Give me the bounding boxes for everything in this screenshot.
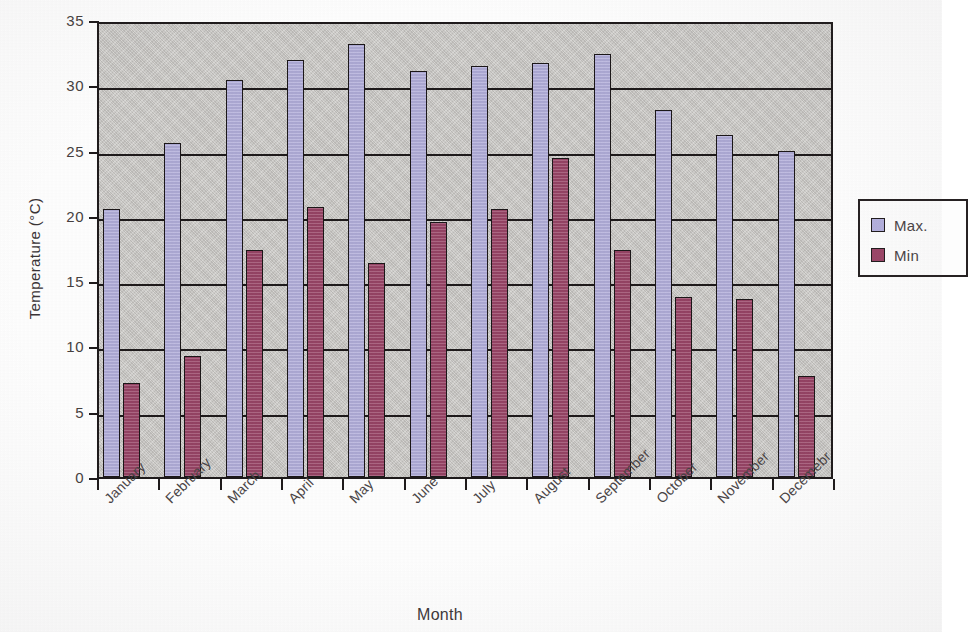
x-axis-tick-label: May (346, 476, 376, 506)
y-axis-tick (89, 152, 99, 154)
bar-max (532, 63, 549, 477)
x-axis-tick-label: July (469, 477, 498, 506)
bar-group (774, 24, 835, 477)
bar-group (283, 24, 344, 477)
y-axis-tick-label: 20 (32, 208, 84, 225)
x-axis-tick (833, 479, 835, 490)
bar-min (491, 209, 508, 477)
bar-texture (533, 64, 548, 476)
bar-max (287, 60, 304, 477)
bar-min (736, 299, 753, 477)
y-axis-tick-labels: 35302520151050 (22, 0, 84, 632)
bar-group (651, 24, 712, 477)
y-axis-tick (89, 217, 99, 219)
y-axis-tick-label: 15 (32, 273, 84, 290)
x-axis-tick-label: April (285, 474, 317, 506)
plot-area (97, 22, 833, 479)
bar-texture (595, 55, 610, 476)
y-axis-tick-label: 30 (32, 77, 84, 94)
bar-texture (247, 251, 262, 476)
y-axis-tick-label: 5 (32, 404, 84, 421)
bar-max (594, 54, 611, 477)
bars-layer (99, 24, 831, 477)
x-axis-tick (649, 479, 651, 490)
bar-max (778, 151, 795, 477)
x-axis-tick (772, 479, 774, 490)
x-axis-tick (220, 479, 222, 490)
x-axis-tick (342, 479, 344, 490)
bar-group (160, 24, 221, 477)
legend-label-max: Max. (894, 217, 928, 234)
legend-label-min: Min (894, 247, 919, 264)
y-axis-tick-label: 10 (32, 338, 84, 355)
bar-texture (656, 111, 671, 476)
x-axis-tick (588, 479, 590, 490)
bar-min (307, 207, 324, 477)
bar-min (552, 158, 569, 477)
bar-texture (472, 67, 487, 476)
bar-texture (737, 300, 752, 476)
bar-group (712, 24, 773, 477)
bar-max (471, 66, 488, 477)
legend-item-min: Min (871, 240, 966, 270)
bar-max (348, 44, 365, 477)
x-axis-tick (404, 479, 406, 490)
x-axis-tick (97, 479, 99, 490)
bar-texture (369, 264, 384, 476)
bar-texture (615, 251, 630, 476)
legend-swatch-max-icon (871, 218, 885, 232)
bar-texture (779, 152, 794, 476)
bar-texture (104, 210, 119, 476)
bar-max (410, 71, 427, 477)
bar-texture (411, 72, 426, 476)
bar-min (675, 297, 692, 477)
x-axis-tick (526, 479, 528, 490)
y-axis-tick (89, 86, 99, 88)
bar-group (344, 24, 405, 477)
bar-texture (308, 208, 323, 476)
bar-max (226, 80, 243, 477)
bar-max (716, 135, 733, 477)
bar-texture (165, 144, 180, 476)
x-axis-tick (158, 479, 160, 490)
bar-max (103, 209, 120, 477)
x-axis-tick (465, 479, 467, 490)
bar-group (406, 24, 467, 477)
bar-min (246, 250, 263, 477)
legend-swatch-min-icon (871, 248, 885, 262)
bar-group (528, 24, 589, 477)
y-axis-tick-label: 35 (32, 12, 84, 29)
bar-min (368, 263, 385, 477)
bar-min (430, 222, 447, 477)
y-axis-tick (89, 282, 99, 284)
y-axis-tick-label: 25 (32, 143, 84, 160)
bar-group (467, 24, 528, 477)
chart-legend: Max. Min (858, 199, 968, 277)
bar-max (655, 110, 672, 477)
bar-texture (553, 159, 568, 476)
bar-group (590, 24, 651, 477)
y-axis-tick (89, 413, 99, 415)
bar-min (614, 250, 631, 477)
bar-texture (227, 81, 242, 476)
y-axis-tick (89, 21, 99, 23)
x-axis-tick (281, 479, 283, 490)
legend-item-max: Max. (871, 210, 966, 240)
bar-texture (676, 298, 691, 476)
y-axis-tick (89, 347, 99, 349)
bar-texture (492, 210, 507, 476)
y-axis-tick-label: 0 (32, 469, 84, 486)
bar-max (164, 143, 181, 477)
bar-texture (349, 45, 364, 476)
bar-group (99, 24, 160, 477)
x-axis-title: Month (0, 606, 880, 624)
bar-texture (717, 136, 732, 476)
bar-texture (288, 61, 303, 476)
bar-group (222, 24, 283, 477)
x-axis-tick (710, 479, 712, 490)
bar-texture (431, 223, 446, 476)
